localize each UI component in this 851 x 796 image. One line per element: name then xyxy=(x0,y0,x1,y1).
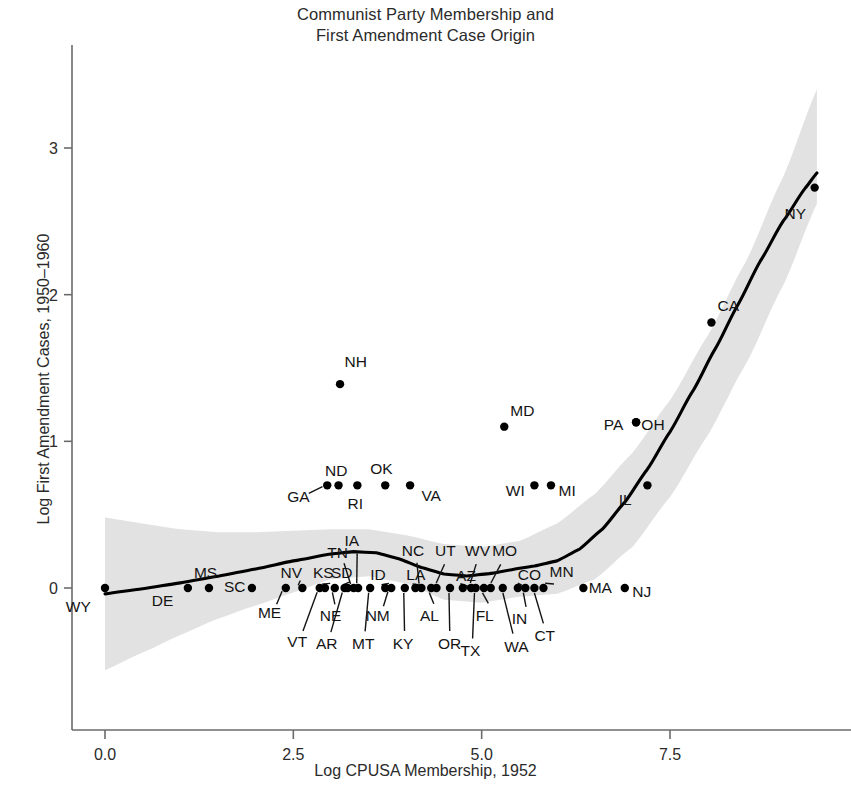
data-point-CA xyxy=(707,318,715,326)
leader-line-GA xyxy=(309,487,323,494)
point-label-MI: MI xyxy=(559,482,576,499)
point-label-CT: CT xyxy=(534,627,555,644)
point-label-WI: WI xyxy=(506,482,525,499)
data-point-IA xyxy=(354,584,362,592)
point-label-CA: CA xyxy=(717,297,739,314)
data-point-OK xyxy=(381,481,389,489)
point-label-NJ: NJ xyxy=(632,583,651,600)
point-label-ID: ID xyxy=(370,566,386,583)
point-label-IA: IA xyxy=(345,532,360,549)
data-point-RI xyxy=(353,481,361,489)
leader-line-KY xyxy=(404,593,405,631)
point-label-OK: OK xyxy=(370,460,393,477)
data-point-KY xyxy=(401,584,409,592)
point-label-OH: OH xyxy=(641,416,664,433)
data-point-MI xyxy=(547,481,555,489)
data-point-MS xyxy=(205,584,213,592)
data-point-ME xyxy=(282,584,290,592)
point-label-NV: NV xyxy=(281,564,303,581)
point-label-SC: SC xyxy=(224,578,246,595)
data-point-NC xyxy=(417,584,425,592)
scatter-plot: WYDEMSSCMENVVTKSNEARSDTNIAMTIDNMKYLANCAL… xyxy=(0,0,851,796)
point-label-TX: TX xyxy=(461,642,481,659)
data-point-MA xyxy=(579,584,587,592)
point-label-WY: WY xyxy=(66,598,91,615)
data-point-UT xyxy=(432,584,440,592)
point-label-ND: ND xyxy=(325,462,347,479)
chart-figure: Communist Party Membership and First Ame… xyxy=(0,0,851,796)
data-point-SC xyxy=(248,584,256,592)
data-point-NM xyxy=(387,584,395,592)
data-point-GA xyxy=(323,481,331,489)
point-label-FL: FL xyxy=(476,607,494,624)
point-label-MT: MT xyxy=(352,635,375,652)
data-point-NH xyxy=(336,380,344,388)
data-point-CO xyxy=(514,584,522,592)
point-label-NY: NY xyxy=(785,205,807,222)
data-point-OH xyxy=(632,418,640,426)
point-label-LA: LA xyxy=(406,566,426,583)
point-label-ME: ME xyxy=(258,604,281,621)
point-label-IL: IL xyxy=(619,491,632,508)
point-label-MA: MA xyxy=(589,579,613,596)
point-label-VA: VA xyxy=(421,487,441,504)
point-label-NC: NC xyxy=(402,542,424,559)
point-label-UT: UT xyxy=(435,542,456,559)
point-label-MD: MD xyxy=(510,402,534,419)
x-tick-label-7.5: 7.5 xyxy=(659,746,681,763)
point-label-NM: NM xyxy=(366,607,390,624)
point-label-NE: NE xyxy=(320,607,342,624)
data-point-WI xyxy=(530,481,538,489)
data-point-CT xyxy=(530,584,538,592)
point-label-DE: DE xyxy=(152,592,174,609)
point-label-RI: RI xyxy=(348,495,364,512)
data-point-NJ xyxy=(621,584,629,592)
point-label-OR: OR xyxy=(438,635,461,652)
leader-line-VT xyxy=(303,592,317,631)
data-point-KS xyxy=(321,584,329,592)
data-point-MT xyxy=(366,584,374,592)
data-point-DE xyxy=(184,584,192,592)
data-point-ND xyxy=(334,481,342,489)
point-label-SD: SD xyxy=(331,564,353,581)
point-label-CO: CO xyxy=(518,566,541,583)
x-axis-label: Log CPUSA Membership, 1952 xyxy=(0,762,851,780)
data-point-IL xyxy=(643,481,651,489)
point-label-NH: NH xyxy=(345,353,367,370)
data-point-IN xyxy=(521,584,529,592)
data-point-OR xyxy=(446,584,454,592)
data-point-NV xyxy=(298,584,306,592)
point-label-MO: MO xyxy=(492,542,517,559)
point-label-WA: WA xyxy=(504,638,529,655)
leader-line-OR xyxy=(449,593,450,631)
data-point-NE xyxy=(331,584,339,592)
leader-line-MN xyxy=(545,583,554,584)
y-axis-label: Log First Amendment Cases, 1950–1960 xyxy=(35,129,53,629)
tick-labels: 01230.02.55.07.5 xyxy=(49,140,681,763)
leader-line-NM xyxy=(383,592,387,607)
x-tick-label-2.5: 2.5 xyxy=(282,746,304,763)
point-label-KY: KY xyxy=(393,635,414,652)
data-point-MD xyxy=(500,422,508,430)
point-label-IN: IN xyxy=(512,610,528,627)
leader-line-CT xyxy=(534,593,543,623)
x-tick-label-0.0: 0.0 xyxy=(94,746,116,763)
point-label-AZ: AZ xyxy=(456,567,476,584)
data-point-VA xyxy=(406,481,414,489)
point-label-PA: PA xyxy=(604,416,624,433)
data-point-WY xyxy=(101,584,109,592)
leader-line-NE xyxy=(332,592,334,604)
data-point-NY xyxy=(810,183,818,191)
point-label-AL: AL xyxy=(420,607,439,624)
data-point-MN xyxy=(539,584,547,592)
data-point-WA xyxy=(499,584,507,592)
data-point-MO xyxy=(487,584,495,592)
point-label-WV: WV xyxy=(465,542,491,559)
data-point-AZ xyxy=(459,584,467,592)
point-label-GA: GA xyxy=(287,488,310,505)
x-tick-label-5.0: 5.0 xyxy=(471,746,493,763)
point-label-AR: AR xyxy=(316,635,338,652)
data-point-TX xyxy=(471,584,479,592)
point-label-MS: MS xyxy=(194,564,217,581)
point-label-VT: VT xyxy=(287,633,307,650)
